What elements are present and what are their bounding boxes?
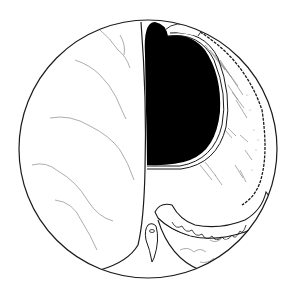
medical-illustration [0, 0, 290, 302]
left-smooth-fold [0, 0, 146, 302]
illustration-stage [0, 0, 290, 302]
central-small-structure [145, 224, 157, 262]
